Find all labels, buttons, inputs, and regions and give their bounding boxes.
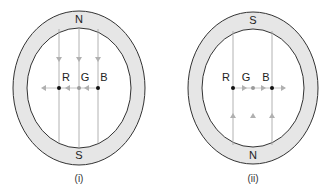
diagram-i: N S R G B (i) (13, 11, 145, 184)
diagram-ii: S N R G B (ii) (188, 12, 318, 184)
label-g: G (81, 71, 90, 83)
wire-g-dot (251, 86, 255, 90)
wire-g-dot (77, 86, 81, 90)
label-b: B (100, 71, 107, 83)
wire-b-dot (96, 86, 100, 90)
bottom-pole-label: N (249, 149, 257, 161)
diagram-canvas: N S R G B (i) S N R G B (ii) (0, 0, 331, 192)
wire-b-dot (270, 86, 274, 90)
caption: (ii) (247, 173, 258, 184)
top-pole-label: S (249, 14, 256, 26)
wire-r-dot (231, 86, 235, 90)
label-r: R (222, 71, 230, 83)
top-pole-label: N (75, 13, 83, 25)
label-r: R (62, 71, 70, 83)
label-b: B (262, 71, 269, 83)
bottom-pole-label: S (75, 149, 82, 161)
label-g: G (242, 71, 251, 83)
caption: (i) (75, 173, 84, 184)
wire-r-dot (57, 86, 61, 90)
